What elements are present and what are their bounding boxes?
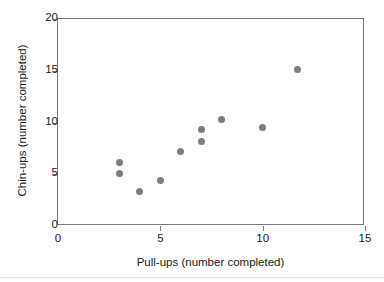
x-axis-tick-label: 0 [38,232,78,244]
data-point [198,126,205,133]
y-axis-tick-label: 10 [18,116,58,128]
x-axis-tick [160,226,161,231]
scatter-chart: 051015 Chin-ups (number completed) Pull-… [0,0,384,282]
x-axis-tick-label: 10 [243,232,283,244]
data-point [177,148,184,155]
y-axis-tick-label: 15 [18,64,58,76]
x-axis-tick-label: 15 [345,232,384,244]
data-point [259,124,266,131]
data-point [294,66,301,73]
x-axis-tick-label: 5 [140,232,180,244]
data-point [218,116,225,123]
data-point [157,177,164,184]
y-axis-tick-label: 0 [18,219,58,231]
data-point [136,188,143,195]
page-bottom-rule [0,277,384,278]
data-point [116,159,123,166]
data-point [198,138,205,145]
x-axis-tick [365,226,366,231]
data-point [116,170,123,177]
y-axis-tick-label: 5 [18,167,58,179]
x-axis-title: Pull-ups (number completed) [57,256,364,269]
plot-area: 051015 [57,18,364,225]
x-axis-tick [263,226,264,231]
y-axis-tick-label: 20 [18,12,58,24]
